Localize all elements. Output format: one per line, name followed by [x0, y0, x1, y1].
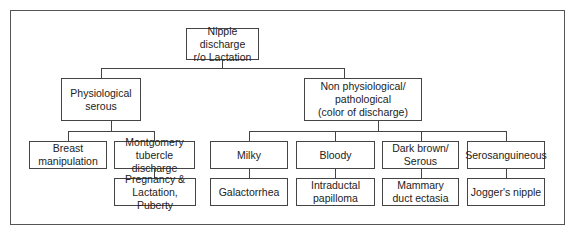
- connector: [421, 131, 422, 141]
- pathological-node: Non physiological/ pathological (color o…: [304, 78, 422, 121]
- milky-node: Milky: [210, 141, 288, 169]
- intraductal-papilloma-node: Intraductal papilloma: [296, 178, 375, 206]
- connector: [111, 121, 112, 131]
- mammary-duct-ectasia-node: Mammary duct ectasia: [382, 178, 459, 206]
- connector: [506, 169, 507, 178]
- galactorrhea-node: Galactorrhea: [210, 178, 288, 206]
- dark-brown-node: Dark brown/ Serous: [382, 141, 459, 169]
- root-node: Nipple discharge r/o Lactation: [186, 28, 259, 60]
- connector: [222, 60, 223, 68]
- connector: [101, 68, 102, 78]
- connector: [335, 131, 336, 141]
- connector: [421, 169, 422, 178]
- connector: [249, 169, 250, 178]
- breast-manipulation-node: Breast manipulation: [29, 141, 107, 169]
- pregnancy-node: Pregnancy & Lactation, Puberty: [114, 178, 196, 206]
- connector: [335, 169, 336, 178]
- connector: [68, 131, 69, 141]
- connector: [249, 131, 250, 141]
- connector: [506, 131, 507, 141]
- connector: [68, 131, 155, 132]
- connector: [378, 121, 379, 131]
- connector: [249, 131, 507, 132]
- joggers-nipple-node: Jogger's nipple: [467, 178, 545, 206]
- connector: [344, 68, 345, 78]
- serosanguineous-node: Serosanguineous: [467, 141, 545, 169]
- connector: [101, 68, 344, 69]
- montgomery-node: Montgomery tubercle discharge: [114, 141, 195, 169]
- physiological-node: Physiological serous: [61, 78, 141, 121]
- bloody-node: Bloody: [296, 141, 375, 169]
